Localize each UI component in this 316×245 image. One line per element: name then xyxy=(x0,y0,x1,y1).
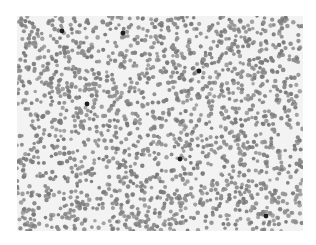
cell-field xyxy=(17,16,303,231)
leukocyte-cell xyxy=(178,157,183,162)
leukocyte-cell xyxy=(121,31,126,36)
leukocyte-cell xyxy=(197,69,202,74)
leukocyte-cell xyxy=(85,102,90,107)
leukocyte-cell xyxy=(264,214,269,219)
leukocyte-cell xyxy=(60,29,65,34)
blood-smear-micrograph xyxy=(17,16,303,231)
